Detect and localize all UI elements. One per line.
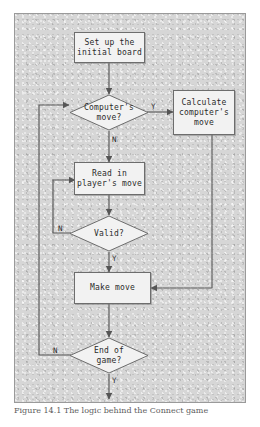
node-computers-move[interactable]: Computer's move? [72, 98, 146, 127]
node-make-move[interactable]: Make move [74, 272, 151, 304]
node-label: Read in player's move [77, 169, 142, 189]
edge-label-end-no: N [53, 347, 58, 355]
node-label: Make move [90, 283, 135, 293]
edge-label-end-yes: Y [112, 377, 117, 385]
node-label: Valid? [94, 229, 124, 239]
node-read-in-players-move[interactable]: Read in player's move [74, 162, 145, 195]
node-label: Calculate computer's move [179, 98, 229, 128]
node-end-of-game[interactable]: End of game? [72, 341, 146, 370]
figure-caption: Figure 14.1 The logic behind the Connect… [14, 406, 246, 427]
edge-label-valid-no: N [58, 225, 63, 233]
edge-endgame-no-loop [39, 105, 71, 355]
node-label: Set up the initial board [77, 38, 142, 58]
edge-label-computer-yes: Y [151, 103, 156, 111]
edge-label-computer-no: N [112, 136, 117, 144]
edge-label-valid-yes: Y [112, 255, 117, 263]
node-calculate-computers-move[interactable]: Calculate computer's move [173, 90, 235, 135]
node-set-up-initial-board[interactable]: Set up the initial board [74, 32, 145, 63]
node-label: Computer's move? [84, 103, 134, 123]
node-valid[interactable]: Valid? [72, 224, 146, 243]
figure-page: Set up the initial board Calculate compu… [0, 0, 260, 427]
edge-calculate-to-makemove [151, 135, 212, 288]
node-label: End of game? [94, 346, 124, 366]
flowchart-frame: Set up the initial board Calculate compu… [14, 13, 246, 403]
